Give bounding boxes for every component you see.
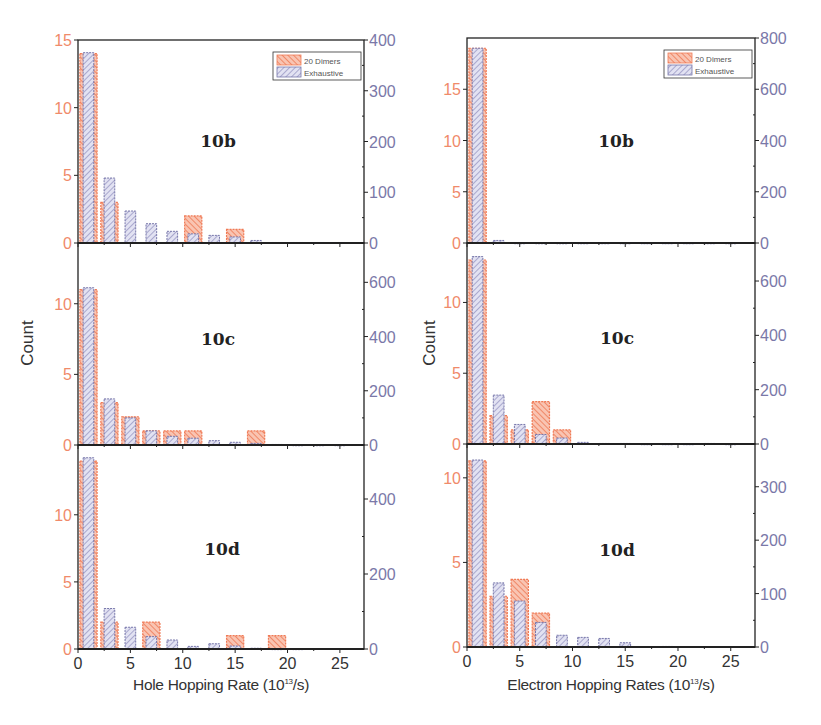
- y-axis-label-electron: Count: [420, 313, 440, 373]
- bar-exhaustive: [83, 288, 94, 445]
- x-axis-label-exponent: 13: [284, 677, 292, 686]
- left-y-tick-label: 10: [443, 133, 461, 150]
- histogram-panel-10b: 051015010020030040010b20 DimersExhaustiv…: [54, 32, 396, 252]
- bar-exhaustive: [230, 237, 241, 243]
- bar-exhaustive: [167, 640, 178, 649]
- bar-exhaustive: [188, 234, 199, 243]
- x-tick-label: 15: [616, 653, 634, 670]
- right-y-tick-label: 0: [760, 639, 769, 656]
- left-y-tick-label: 5: [452, 365, 461, 382]
- y-axis-label-hole: Count: [18, 313, 38, 373]
- bar-exhaustive: [535, 622, 546, 647]
- left-y-tick-label: 0: [63, 437, 72, 454]
- x-axis-label-unit: /s): [698, 676, 714, 693]
- left-y-tick-label: 5: [452, 554, 461, 571]
- left-y-tick-label: 10: [443, 470, 461, 487]
- left-y-tick-label: 0: [63, 235, 72, 252]
- bar-exhaustive: [167, 436, 178, 445]
- bar-20-dimers: [248, 431, 265, 445]
- x-tick-label: 5: [126, 655, 135, 672]
- right-y-tick-label: 200: [760, 382, 787, 399]
- bar-exhaustive: [472, 48, 483, 243]
- right-y-tick-label: 400: [369, 329, 396, 346]
- left-y-tick-label: 10: [54, 100, 72, 117]
- bar-exhaustive: [599, 638, 610, 647]
- right-y-tick-label: 0: [369, 437, 378, 454]
- left-y-tick-label: 10: [443, 294, 461, 311]
- bar-exhaustive: [146, 431, 157, 445]
- bar-exhaustive: [514, 424, 525, 444]
- bar-exhaustive: [493, 583, 504, 647]
- legend-swatch-20-dimers: [277, 55, 301, 65]
- panel-label: 10d: [204, 539, 240, 559]
- x-tick-label: 15: [226, 655, 244, 672]
- right-y-tick-label: 400: [760, 133, 787, 150]
- right-y-tick-label: 400: [369, 32, 396, 49]
- x-tick-label: 10: [174, 655, 192, 672]
- left-y-tick-label: 5: [63, 574, 72, 591]
- panel-label: 10c: [201, 329, 235, 349]
- right-y-tick-label: 0: [760, 235, 769, 252]
- right-y-tick-label: 400: [369, 491, 396, 508]
- histogram-panel-10c: 0510020040060010c: [443, 243, 787, 453]
- right-y-tick-label: 300: [369, 83, 396, 100]
- left-y-tick-label: 15: [443, 81, 461, 98]
- bar-exhaustive: [125, 627, 136, 649]
- histogram-panel-10b: 051015020040060080010b20 DimersExhaustiv…: [443, 30, 787, 252]
- left-y-tick-label: 0: [452, 436, 461, 453]
- right-y-tick-label: 0: [369, 641, 378, 658]
- legend: 20 DimersExhaustive: [664, 50, 752, 78]
- x-tick-label: 5: [515, 653, 524, 670]
- panel-label: 10d: [599, 540, 635, 560]
- right-y-tick-label: 600: [369, 274, 396, 291]
- left-y-tick-label: 0: [452, 639, 461, 656]
- hopping-rate-histogram-figure: 051015010020030040010b20 DimersExhaustiv…: [0, 0, 821, 725]
- bar-exhaustive: [146, 224, 157, 243]
- bar-exhaustive: [472, 257, 483, 444]
- histogram-panel-10d: 0510020040010d0510152025: [54, 445, 396, 672]
- right-y-tick-label: 200: [369, 134, 396, 151]
- legend-swatch-exhaustive: [277, 67, 301, 77]
- legend-label-20-dimers: 20 Dimers: [304, 57, 340, 66]
- bar-exhaustive: [104, 609, 115, 650]
- bar-exhaustive: [83, 53, 94, 243]
- left-y-tick-label: 5: [452, 184, 461, 201]
- bar-20-dimers: [268, 636, 285, 649]
- chart-canvas: 051015010020030040010b20 DimersExhaustiv…: [0, 0, 821, 725]
- right-y-tick-label: 0: [760, 436, 769, 453]
- bar-exhaustive: [514, 601, 525, 647]
- legend: 20 DimersExhaustive: [273, 52, 361, 80]
- right-y-tick-label: 600: [760, 273, 787, 290]
- panel-label: 10b: [598, 131, 634, 151]
- x-tick-label: 20: [279, 655, 297, 672]
- bar-exhaustive: [493, 395, 504, 444]
- right-y-tick-label: 200: [760, 532, 787, 549]
- right-y-tick-label: 300: [760, 479, 787, 496]
- right-y-tick-label: 400: [760, 327, 787, 344]
- right-y-tick-label: 200: [369, 383, 396, 400]
- bar-exhaustive: [209, 235, 220, 243]
- bar-exhaustive: [535, 434, 546, 444]
- right-y-tick-label: 100: [369, 184, 396, 201]
- right-y-tick-label: 800: [760, 30, 787, 47]
- bar-exhaustive: [104, 178, 115, 243]
- right-y-tick-label: 0: [369, 235, 378, 252]
- panel-label: 10c: [600, 328, 634, 348]
- bar-exhaustive: [167, 231, 178, 243]
- x-axis-label-text: Hole Hopping Rate (10: [133, 676, 284, 693]
- left-y-tick-label: 0: [452, 235, 461, 252]
- panel-label: 10b: [200, 131, 236, 151]
- histogram-panel-10c: 0510020040060010c: [54, 243, 396, 454]
- bar-exhaustive: [578, 637, 589, 647]
- left-y-tick-label: 5: [63, 167, 72, 184]
- x-tick-label: 0: [74, 655, 83, 672]
- x-tick-label: 25: [331, 655, 349, 672]
- x-tick-label: 0: [463, 653, 472, 670]
- bar-exhaustive: [83, 458, 94, 649]
- right-y-tick-label: 200: [760, 184, 787, 201]
- bar-exhaustive: [472, 460, 483, 647]
- right-y-tick-label: 100: [760, 586, 787, 603]
- bar-exhaustive: [188, 438, 199, 445]
- legend-swatch-20-dimers: [668, 53, 692, 63]
- x-axis-label-text: Electron Hopping Rates (10: [507, 676, 690, 693]
